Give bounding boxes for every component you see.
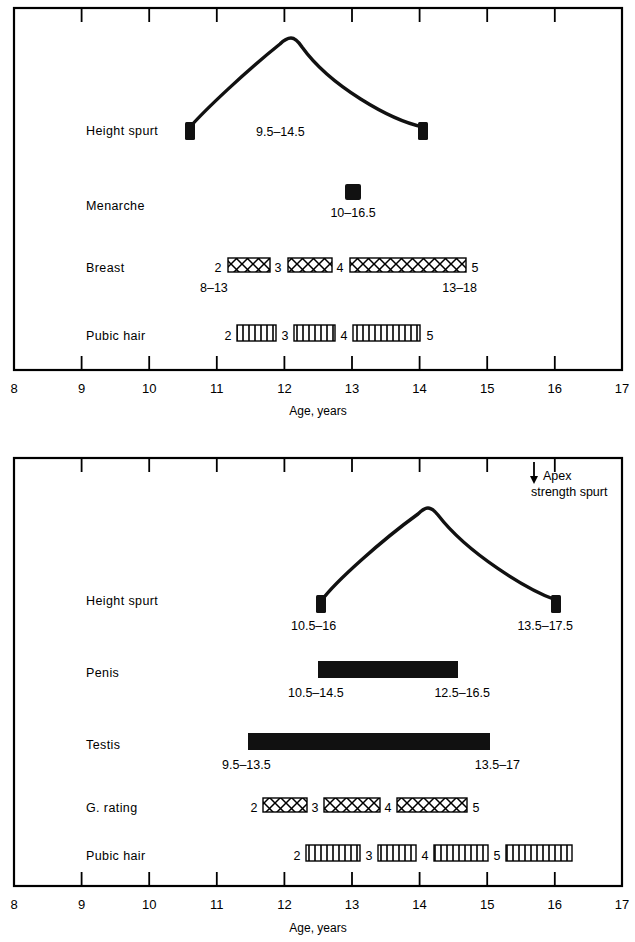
pubic-hair-segment-3-4 <box>294 325 335 341</box>
pubic-hair-stage-number: 4 <box>422 849 429 863</box>
bottom-tick-marks <box>82 872 555 886</box>
g-rating-stage-number: 3 <box>312 801 319 815</box>
x-tick-label: 10 <box>142 381 156 396</box>
pubic-hair-stage-number: 2 <box>294 849 301 863</box>
breast-segment-2-3 <box>228 258 270 272</box>
g-rating-segment-3-4 <box>324 798 380 812</box>
height-spurt-start-marker <box>185 122 195 140</box>
pubic-hair-segment-3-4 <box>378 845 416 861</box>
testis-end-range-label: 13.5–17 <box>475 758 520 772</box>
height-spurt-end-range-label: 13.5–17.5 <box>517 619 573 633</box>
breast-start-range-label: 8–13 <box>200 281 228 295</box>
pubic-hair-segment-4-5 <box>353 325 420 341</box>
pubic-hair-segment-2-3 <box>237 325 276 341</box>
row-label-height-spurt: Height spurt <box>86 124 158 138</box>
female-puberty-chart: 8 9 10 11 12 13 14 15 16 17 Age, years H… <box>0 0 635 420</box>
penis-start-range-label: 10.5–14.5 <box>288 686 344 700</box>
g-rating-segment-2-3 <box>263 798 307 812</box>
menarche-marker <box>345 184 361 200</box>
menarche-range-label: 10–16.5 <box>330 206 375 220</box>
pubic-hair-stage-number: 3 <box>282 329 289 343</box>
x-axis-tick-labels: 8 9 10 11 12 13 14 15 16 17 <box>10 897 629 912</box>
g-rating-stage-number: 4 <box>385 801 392 815</box>
height-spurt-curve <box>316 508 561 613</box>
pubic-hair-stage-number: 4 <box>341 329 348 343</box>
height-spurt-range-label: 9.5–14.5 <box>256 125 305 139</box>
x-axis-tick-labels: 8 9 10 11 12 13 14 15 16 17 <box>10 381 629 396</box>
x-tick-label: 8 <box>10 897 17 912</box>
down-arrow-icon <box>530 462 538 484</box>
breast-stage-number: 4 <box>337 261 344 275</box>
x-tick-label: 11 <box>210 381 224 396</box>
x-tick-label: 16 <box>548 381 562 396</box>
pubic-hair-stage-number: 3 <box>366 849 373 863</box>
g-rating-segment-4-5 <box>397 798 467 812</box>
pubic-hair-segment-5 <box>506 845 572 861</box>
breast-stage-number: 3 <box>275 261 282 275</box>
top-tick-marks <box>82 458 555 472</box>
x-tick-label: 12 <box>277 381 291 396</box>
penis-bar <box>318 661 458 678</box>
row-label-g-rating: G. rating <box>86 801 138 815</box>
x-tick-label: 9 <box>78 897 85 912</box>
male-chart-svg: 8 9 10 11 12 13 14 15 16 17 Age, years A… <box>0 440 635 942</box>
height-spurt-start-marker <box>316 595 326 613</box>
breast-stage-number: 2 <box>215 261 222 275</box>
female-chart-svg: 8 9 10 11 12 13 14 15 16 17 Age, years H… <box>0 0 635 420</box>
g-rating-stage-number: 2 <box>251 801 258 815</box>
x-tick-label: 9 <box>78 381 85 396</box>
breast-stage-bars: 2 3 4 5 <box>215 258 479 275</box>
breast-stage-number: 5 <box>472 261 479 275</box>
pubic-hair-segment-4-5 <box>434 845 488 861</box>
pubic-hair-stage-number: 2 <box>225 329 232 343</box>
pubic-hair-stage-number: 5 <box>427 329 434 343</box>
x-tick-label: 15 <box>480 897 494 912</box>
breast-segment-3-4 <box>288 258 332 272</box>
apex-strength-spurt-line2: strength spurt <box>531 485 608 499</box>
g-rating-stage-bars: 2 3 4 5 <box>251 798 480 815</box>
pubic-hair-stage-bars: 2 3 4 5 <box>294 845 572 863</box>
top-tick-marks <box>82 8 555 22</box>
x-tick-label: 17 <box>615 897 629 912</box>
x-tick-label: 13 <box>345 381 359 396</box>
bottom-tick-marks <box>82 356 555 370</box>
row-label-testis: Testis <box>86 738 120 752</box>
breast-segment-4-5 <box>350 258 466 272</box>
g-rating-stage-number: 5 <box>473 801 480 815</box>
height-spurt-start-range-label: 10.5–16 <box>291 619 336 633</box>
x-tick-label: 13 <box>345 897 359 912</box>
x-tick-label: 16 <box>548 897 562 912</box>
testis-start-range-label: 9.5–13.5 <box>222 758 271 772</box>
row-label-pubic-hair: Pubic hair <box>86 849 146 863</box>
pubic-hair-stage-bars: 2 3 4 5 <box>225 325 434 343</box>
x-tick-label: 14 <box>412 381 426 396</box>
x-tick-label: 12 <box>277 897 291 912</box>
male-puberty-chart: 8 9 10 11 12 13 14 15 16 17 Age, years A… <box>0 440 635 942</box>
height-spurt-end-marker <box>551 595 561 613</box>
height-spurt-end-marker <box>418 122 428 140</box>
row-label-height-spurt: Height spurt <box>86 594 158 608</box>
row-label-breast: Breast <box>86 261 125 275</box>
x-tick-label: 14 <box>412 897 426 912</box>
x-tick-label: 8 <box>10 381 17 396</box>
apex-strength-spurt-line1: Apex <box>543 469 572 483</box>
penis-end-range-label: 12.5–16.5 <box>434 686 490 700</box>
row-label-penis: Penis <box>86 666 119 680</box>
x-tick-label: 11 <box>210 897 224 912</box>
breast-end-range-label: 13–18 <box>442 281 477 295</box>
x-tick-label: 10 <box>142 897 156 912</box>
row-label-menarche: Menarche <box>86 199 145 213</box>
pubic-hair-stage-number: 5 <box>494 849 501 863</box>
row-label-pubic-hair: Pubic hair <box>86 329 146 343</box>
plot-frame <box>14 8 622 370</box>
apex-strength-spurt-annotation: Apex strength spurt <box>530 462 608 499</box>
height-spurt-curve <box>185 38 428 140</box>
x-tick-label: 17 <box>615 381 629 396</box>
pubic-hair-segment-2-3 <box>306 845 360 861</box>
x-tick-label: 15 <box>480 381 494 396</box>
x-axis-title: Age, years <box>289 404 346 418</box>
testis-bar <box>248 733 490 750</box>
x-axis-title: Age, years <box>289 921 346 935</box>
